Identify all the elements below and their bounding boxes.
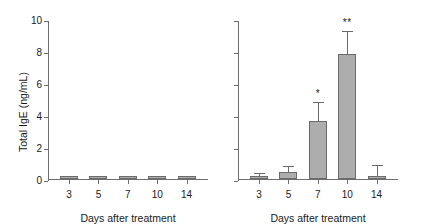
y-axis-label-left: Total IgE (ng/mL) [17,72,29,152]
y-axis-tick-label: 6 [36,78,42,91]
y-axis-tick [234,53,238,54]
x-axis-label-left: Days after treatment [48,212,208,224]
x-axis-tick [98,180,99,184]
y-axis-tick [234,21,238,22]
chart-panel-left: Total IgE (ng/mL) Days after treatment 0… [0,0,214,224]
x-axis-tick-label: 3 [244,189,274,201]
y-axis-tick [44,85,48,86]
significance-marker: * [306,89,330,99]
y-axis-tick [44,149,48,150]
x-axis-tick-label: 14 [362,189,392,201]
figure: Total IgE (ng/mL) Days after treatment 0… [0,0,427,224]
y-axis-tick-label: 10 [31,14,42,27]
x-axis-tick [259,180,260,184]
x-axis-tick-label: 14 [172,189,202,201]
x-axis-tick-label: 10 [332,189,362,201]
x-axis-tick-label: 7 [113,189,143,201]
y-axis-tick [44,181,48,182]
chart-panel-right: Days after treatment 357*10**14 [213,0,427,224]
error-bar [377,166,378,177]
error-bar [288,167,289,173]
significance-marker: ** [335,18,359,28]
error-bar [318,103,319,121]
error-bar [259,174,260,176]
x-axis-tick [377,180,378,184]
y-axis-tick [44,117,48,118]
y-axis-tick [234,181,238,182]
x-axis-tick-label: 3 [54,189,84,201]
y-axis-tick-label: 8 [36,46,42,59]
error-bar-cap [313,102,324,103]
x-axis-tick [288,180,289,184]
bar [60,176,78,179]
x-axis-tick [318,180,319,184]
x-axis-label-right: Days after treatment [238,212,398,224]
y-axis-tick [234,149,238,150]
bar [178,176,196,179]
error-bar [347,32,348,55]
y-axis-tick [44,21,48,22]
error-bar-cap [372,165,383,166]
bar [279,172,297,179]
y-axis-tick [44,53,48,54]
x-axis-tick-label: 5 [83,189,113,201]
y-axis-line-right [238,21,239,181]
y-axis-tick-label: 2 [36,142,42,155]
error-bar-cap [283,166,294,167]
y-axis-tick [234,85,238,86]
x-axis-tick [187,180,188,184]
x-axis-tick-label: 10 [142,189,172,201]
bar [119,176,137,179]
bar [309,121,327,179]
plot-area-right: Days after treatment 357*10**14 [238,21,398,180]
y-axis-tick-label: 4 [36,110,42,123]
x-axis-tick [157,180,158,184]
x-axis-tick [347,180,348,184]
bar [148,176,166,179]
x-axis-tick [69,180,70,184]
y-axis-tick-label: 0 [36,174,42,187]
error-bar-cap [342,31,353,32]
bar [338,54,356,179]
plot-area-left: Days after treatment 02468103571014 [48,21,208,180]
error-bar-cap [254,173,265,174]
bar [89,176,107,179]
x-axis-tick-label: 7 [303,189,333,201]
x-axis-tick [128,180,129,184]
y-axis-line-left [48,21,49,181]
x-axis-tick-label: 5 [273,189,303,201]
y-axis-tick [234,117,238,118]
